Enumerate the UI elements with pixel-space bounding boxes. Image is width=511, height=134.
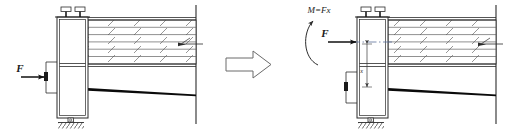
equals-transform-arrow bbox=[226, 51, 271, 78]
load-bracket bbox=[344, 72, 357, 103]
force-label: F bbox=[320, 27, 329, 39]
pin-support-ground bbox=[58, 118, 84, 129]
figure-canvas: F bbox=[0, 0, 511, 134]
top-bolt bbox=[61, 7, 71, 17]
laminated-beam-stack bbox=[88, 18, 196, 67]
force-label: F bbox=[15, 62, 24, 74]
right-diagram-group: F x M=Fx bbox=[306, 5, 503, 129]
pin-support-ground bbox=[358, 118, 384, 129]
vertical-column bbox=[57, 17, 88, 118]
left-diagram-group: F bbox=[15, 5, 203, 129]
top-bolt bbox=[75, 7, 85, 17]
laminated-beam-stack bbox=[388, 18, 496, 67]
top-bolt bbox=[375, 7, 385, 17]
top-bolt bbox=[361, 7, 371, 17]
load-bracket bbox=[44, 62, 57, 93]
force-moment-equivalence-figure: F bbox=[0, 0, 511, 134]
deflected-beam-line bbox=[388, 88, 496, 96]
eccentricity-label: x bbox=[359, 68, 363, 74]
moment-label: M=Fx bbox=[306, 5, 330, 15]
deflected-beam-line bbox=[88, 88, 196, 96]
moment-arrow bbox=[306, 21, 318, 65]
